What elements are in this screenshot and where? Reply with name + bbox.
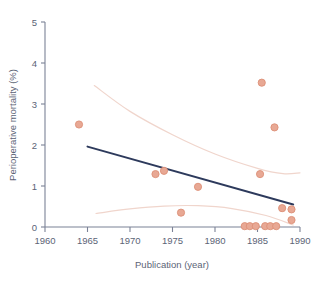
x-tick-label: 1960 [34, 235, 55, 246]
data-point-group [75, 79, 295, 230]
x-tick-label: 1975 [162, 235, 183, 246]
x-tick-label: 1990 [289, 235, 310, 246]
data-point [160, 167, 167, 174]
data-point [194, 183, 201, 190]
upper-confidence-band [94, 86, 300, 174]
x-tick-label: 1970 [119, 235, 140, 246]
x-axis-tick-labels: 1960196519701975198019851990 [34, 235, 310, 246]
data-point [152, 171, 159, 178]
data-point [288, 206, 295, 213]
data-point [75, 121, 82, 128]
y-axis-tick-labels: 012345 [32, 17, 37, 233]
x-axis-title: Publication (year) [135, 259, 209, 270]
data-point [273, 223, 280, 230]
data-point [256, 171, 263, 178]
y-axis: 012345 [32, 17, 45, 233]
plot-canvas: 012345 1960196519701975198019851990 Publ… [0, 0, 323, 282]
y-tick-label: 3 [32, 99, 37, 110]
y-tick-label: 1 [32, 181, 37, 192]
y-axis-ticks [41, 22, 45, 227]
data-point [288, 216, 295, 223]
scatter-plot-figure: 012345 1960196519701975198019851990 Publ… [0, 0, 323, 282]
y-tick-label: 2 [32, 140, 37, 151]
data-point [279, 205, 286, 212]
y-tick-label: 0 [32, 222, 37, 233]
y-tick-label: 5 [32, 17, 37, 28]
x-tick-label: 1965 [77, 235, 98, 246]
data-point [258, 79, 265, 86]
data-point [271, 124, 278, 131]
data-point [252, 223, 259, 230]
y-axis-title: Perioperative mortality (%) [7, 69, 18, 181]
lower-confidence-band [96, 205, 293, 224]
x-tick-label: 1985 [247, 235, 268, 246]
data-point [177, 209, 184, 216]
y-tick-label: 4 [32, 58, 37, 69]
x-tick-label: 1980 [204, 235, 225, 246]
